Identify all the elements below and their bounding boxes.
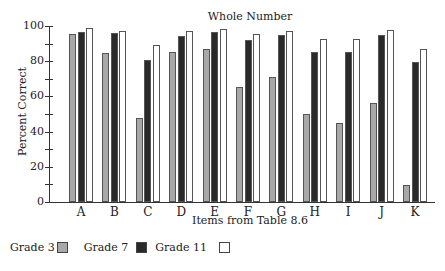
bar-f-grade-3 — [236, 87, 243, 202]
x-tick-label: C — [138, 205, 158, 219]
bar-c-grade-7 — [144, 60, 151, 202]
y-tick-label: 0 — [20, 195, 44, 208]
bar-a-grade-7 — [78, 32, 85, 202]
bar-f-grade-11 — [253, 34, 260, 202]
y-tick-label: 60 — [20, 89, 44, 102]
y-tick — [45, 61, 53, 62]
y-tick-label: 80 — [20, 54, 44, 67]
legend-swatch-grade-3 — [57, 242, 68, 253]
bar-h-grade-3 — [303, 114, 310, 202]
bar-i-grade-11 — [353, 39, 360, 202]
y-tick-label: 20 — [20, 160, 44, 173]
bar-f-grade-7 — [245, 40, 252, 202]
bar-j-grade-7 — [378, 35, 385, 202]
bar-b-grade-11 — [119, 31, 126, 202]
bar-c-grade-11 — [153, 45, 160, 202]
bar-i-grade-7 — [345, 52, 352, 202]
legend-swatch-grade-11 — [219, 242, 230, 253]
y-axis-label: Percent Correct — [16, 62, 29, 162]
bar-h-grade-11 — [320, 39, 327, 202]
bar-g-grade-3 — [269, 77, 276, 202]
bar-k-grade-3 — [403, 185, 410, 202]
x-tick-label: F — [238, 205, 258, 219]
bar-d-grade-11 — [186, 31, 193, 202]
x-tick-label: H — [305, 205, 325, 219]
y-tick — [45, 202, 53, 203]
y-tick — [45, 114, 53, 115]
y-tick — [45, 167, 53, 168]
bar-g-grade-7 — [278, 35, 285, 202]
y-tick — [45, 149, 53, 150]
bar-b-grade-7 — [111, 33, 118, 202]
x-tick-label: D — [171, 205, 191, 219]
y-tick — [45, 26, 53, 27]
y-tick-label: 40 — [20, 125, 44, 138]
bar-h-grade-7 — [311, 52, 318, 202]
legend-label-grade-11: Grade 11 — [155, 241, 207, 254]
bar-e-grade-11 — [220, 29, 227, 202]
y-tick — [45, 96, 53, 97]
bar-j-grade-3 — [370, 103, 377, 202]
x-axis — [49, 202, 435, 203]
y-tick-label: 100 — [20, 19, 44, 32]
x-tick-label: I — [338, 205, 358, 219]
bar-k-grade-11 — [420, 49, 427, 202]
bar-chart: Whole Number Percent Correct Items from … — [0, 0, 445, 271]
bar-j-grade-11 — [387, 30, 394, 202]
chart-title: Whole Number — [200, 10, 300, 23]
bar-a-grade-3 — [69, 34, 76, 202]
x-tick-label: G — [271, 205, 291, 219]
x-tick-label: J — [372, 205, 392, 219]
bar-d-grade-7 — [178, 36, 185, 202]
bar-e-grade-3 — [203, 49, 210, 202]
x-tick-label: E — [205, 205, 225, 219]
y-tick — [45, 79, 53, 80]
bar-b-grade-3 — [102, 53, 109, 202]
x-tick-label: K — [405, 205, 425, 219]
legend-label-grade-3: Grade 3 — [10, 241, 55, 254]
x-tick-label: B — [104, 205, 124, 219]
bar-d-grade-3 — [169, 52, 176, 202]
legend: Grade 3 Grade 7 Grade 11 — [10, 239, 230, 255]
y-tick — [45, 184, 53, 185]
bar-a-grade-11 — [86, 28, 93, 202]
bar-k-grade-7 — [412, 62, 419, 202]
bar-e-grade-7 — [211, 32, 218, 202]
bar-i-grade-3 — [336, 123, 343, 202]
legend-label-grade-7: Grade 7 — [84, 241, 129, 254]
y-tick — [45, 132, 53, 133]
x-tick-label: A — [71, 205, 91, 219]
legend-swatch-grade-7 — [136, 242, 147, 253]
bar-g-grade-11 — [286, 31, 293, 202]
y-tick — [45, 44, 53, 45]
bar-c-grade-3 — [136, 118, 143, 202]
